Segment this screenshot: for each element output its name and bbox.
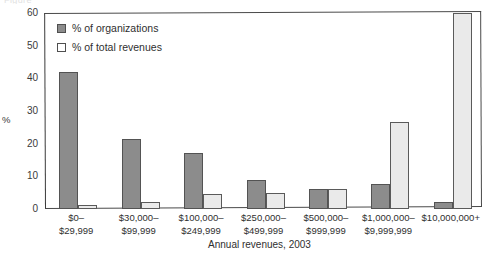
bar-revenues-4: [328, 189, 347, 209]
legend-swatch-dark-icon: [57, 24, 66, 33]
x-tick-label-line: $10,000,000+: [408, 211, 494, 224]
x-tick-label-line: $9,999,999: [345, 224, 431, 237]
x-axis-title-wrap: Annual revenues, 2003: [0, 239, 497, 250]
bar-revenues-1: [141, 202, 160, 210]
bar-revenues-3: [266, 193, 285, 209]
bar-revenues-6: [453, 13, 472, 209]
bar-organizations-1: [122, 139, 141, 209]
y-tick-label: 30: [16, 105, 38, 116]
y-tick-label: 10: [16, 170, 38, 181]
figure-root: Figure % 0102030405060 % of organization…: [0, 0, 497, 257]
legend-swatch-light-icon: [57, 43, 66, 52]
legend-item-revenues: % of total revenues: [57, 41, 162, 53]
y-tick-label: 20: [16, 138, 38, 149]
bar-organizations-0: [59, 72, 78, 209]
x-axis-title: Annual revenues, 2003: [208, 239, 311, 250]
legend-label-revenues: % of total revenues: [72, 41, 162, 53]
bar-organizations-4: [309, 189, 328, 209]
bar-organizations-6: [434, 202, 453, 209]
bar-revenues-5: [390, 122, 409, 209]
bar-organizations-2: [184, 153, 203, 209]
legend-label-organizations: % of organizations: [72, 22, 158, 34]
legend-item-organizations: % of organizations: [57, 22, 162, 34]
y-axis-ticks: 0102030405060: [14, 0, 38, 210]
bar-organizations-5: [371, 184, 390, 209]
bar-organizations-3: [247, 180, 266, 209]
bar-revenues-0: [78, 205, 97, 209]
x-tick-label-6: $10,000,000+: [408, 211, 494, 224]
y-tick-label: 50: [16, 40, 38, 51]
y-tick-label: 60: [16, 7, 38, 18]
legend: % of organizations % of total revenues: [57, 22, 162, 60]
y-axis-title: %: [2, 114, 10, 125]
bar-revenues-2: [203, 194, 222, 209]
y-tick-label: 40: [16, 72, 38, 83]
